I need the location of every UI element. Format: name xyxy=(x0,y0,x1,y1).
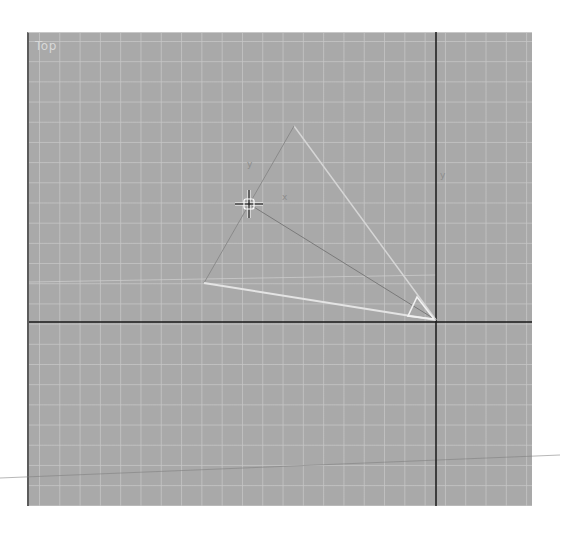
gizmo-label-y: y xyxy=(247,159,253,169)
camera-fov-cone[interactable] xyxy=(204,126,436,320)
shadow-line xyxy=(0,455,560,478)
move-cursor-icon xyxy=(235,190,263,218)
fov-edge-bottom xyxy=(204,283,436,320)
camera-target-line xyxy=(249,204,436,320)
viewport-scene: y x y xyxy=(0,0,563,541)
fov-edge-top xyxy=(294,126,436,320)
axis-label-y: y xyxy=(440,170,446,180)
ground-line xyxy=(29,275,436,282)
gizmo-label-x: x xyxy=(282,192,288,202)
